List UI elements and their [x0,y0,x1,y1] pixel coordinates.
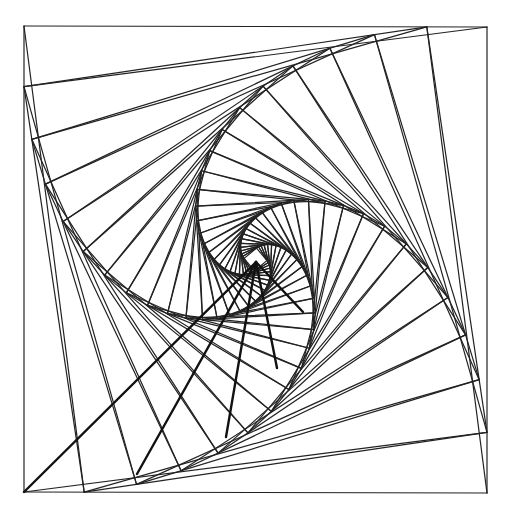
fan-line [137,335,466,485]
square-edge [63,66,293,222]
square-edge [218,298,448,454]
square-edge [45,184,181,471]
square-edge [137,380,480,485]
square-edge [374,35,479,380]
fan-line [427,27,487,493]
square-edge [24,87,84,493]
square-edge [63,221,218,453]
fan-line [271,226,384,411]
fan-line [24,27,487,87]
whirl-diagram [0,0,510,517]
square-edge [24,492,487,493]
square-edge [427,27,487,433]
fan-line [330,48,479,379]
square-edge [330,48,466,335]
square-edge [181,335,465,471]
square-edge [45,48,329,184]
fan-line [126,108,239,293]
fan-line [32,139,181,470]
square-edge [24,27,427,87]
fan-line [24,432,487,492]
fan-line [45,35,374,185]
square-edge [24,26,487,27]
square-edge [293,66,448,298]
fan-line [222,129,406,243]
square-edge [32,35,375,140]
fan-line [24,26,84,492]
